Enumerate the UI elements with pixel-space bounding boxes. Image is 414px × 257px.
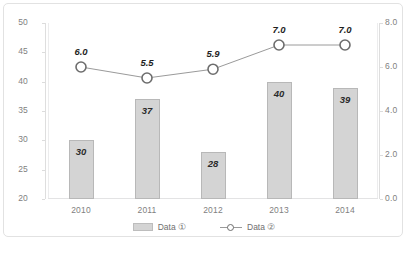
left-axis-tick-30: 30 <box>0 134 28 144</box>
right-axis-tick-mark <box>380 199 383 200</box>
line-marker-2014[interactable] <box>340 40 350 50</box>
legend-bar-swatch-icon <box>133 223 153 231</box>
left-axis-tick-mark <box>42 52 45 53</box>
x-axis-label-2014: 2014 <box>335 205 355 215</box>
legend-line-marker-icon <box>220 223 242 232</box>
line-marker-2011[interactable] <box>142 73 152 83</box>
legend-label-2: Data ② <box>247 222 275 232</box>
left-axis-tick-20: 20 <box>0 193 28 203</box>
right-axis-tick-6.0: 6.0 <box>385 61 409 71</box>
legend-item-2[interactable]: Data ② <box>220 222 275 232</box>
line-value-label-2012: 5.9 <box>206 48 219 59</box>
x-axis-label-2010: 2010 <box>71 205 91 215</box>
left-axis-tick-45: 45 <box>0 46 28 56</box>
legend-item-1[interactable]: Data ① <box>133 222 186 232</box>
left-axis-tick-35: 35 <box>0 105 28 115</box>
right-axis-tick-mark <box>380 111 383 112</box>
line-marker-2013[interactable] <box>274 40 284 50</box>
left-axis-tick-mark <box>42 140 45 141</box>
left-axis-tick-mark <box>42 170 45 171</box>
line-marker-2010[interactable] <box>76 62 86 72</box>
chart-legend: Data ①Data ② <box>4 222 404 232</box>
line-value-label-2011: 5.5 <box>140 57 153 68</box>
line-value-label-2014: 7.0 <box>338 24 351 35</box>
legend-label-1: Data ① <box>158 222 186 232</box>
right-axis-tick-mark <box>380 155 383 156</box>
line-marker-2012[interactable] <box>208 64 218 74</box>
left-axis-tick-mark <box>42 111 45 112</box>
line-value-label-2010: 6.0 <box>74 46 87 57</box>
left-axis-tick-mark <box>42 82 45 83</box>
plot-area: 3037284039 6.05.55.97.07.0 <box>48 23 378 199</box>
left-axis-tick-40: 40 <box>0 76 28 86</box>
right-axis-tick-8.0: 8.0 <box>385 17 409 27</box>
legend-circle-marker <box>227 224 234 231</box>
left-axis-spine <box>45 23 46 199</box>
left-axis-tick-mark <box>42 199 45 200</box>
x-axis-label-2011: 2011 <box>137 205 156 215</box>
right-axis-tick-4.0: 4.0 <box>385 105 409 115</box>
right-axis-tick-mark <box>380 23 383 24</box>
line-markers <box>76 40 350 83</box>
left-axis-tick-50: 50 <box>0 17 28 27</box>
chart-frame: 50454035302520 8.06.04.02.00.0 303728403… <box>3 3 403 237</box>
x-axis-label-2013: 2013 <box>269 205 289 215</box>
line-value-label-2013: 7.0 <box>272 24 285 35</box>
left-axis-tick-25: 25 <box>0 164 28 174</box>
left-axis-tick-mark <box>42 23 45 24</box>
right-axis-tick-0.0: 0.0 <box>385 193 409 203</box>
right-axis-tick-mark <box>380 67 383 68</box>
x-axis-label-2012: 2012 <box>203 205 223 215</box>
right-axis-tick-2.0: 2.0 <box>385 149 409 159</box>
